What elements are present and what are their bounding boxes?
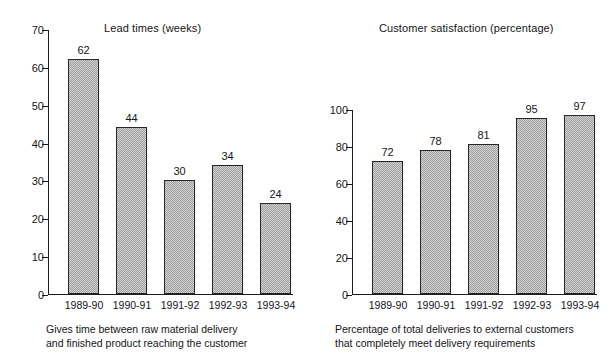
chart-panel-lead-times: Lead times (weeks) 010203040506070 62443… [0,0,305,362]
x-axis-category-label: 1990-91 [409,299,463,311]
bar-value-label: 78 [412,136,459,147]
bar-value-label: 62 [60,45,107,56]
bar-value-label: 72 [364,147,411,158]
bar-slot: 44 [108,30,156,294]
chart-caption-lead-times: Gives time between raw material delivery… [46,322,247,350]
bar-value-label: 34 [204,151,251,162]
y-axis-tick-label: 70 [32,25,44,36]
x-axis-category-label: 1989-90 [361,299,415,311]
y-axis-tick-label: 0 [342,290,348,301]
x-axis-category-label: 1992-93 [505,299,559,311]
y-axis-tick-label: 60 [336,179,348,190]
chart-title-customer-satisfaction: Customer satisfaction (percentage) [379,22,554,35]
y-axis-tick-label: 40 [32,138,44,149]
x-axis-category-label: 1992-93 [201,299,255,311]
bar-slot: 97 [556,110,604,294]
bar[interactable] [260,203,291,294]
x-axis-category-label: 1993-94 [553,299,607,311]
y-axis-tick-label: 100 [330,105,348,116]
figure: Lead times (weeks) 010203040506070 62443… [0,0,610,362]
bar-slot: 78 [412,110,460,294]
y-axis-tick-label: 10 [32,252,44,263]
bar[interactable] [164,180,195,294]
bar-group-customer-satisfaction: 7278819597 [353,110,597,294]
y-axis-tick-label: 60 [32,62,44,73]
x-axis-category-label: 1993-94 [249,299,303,311]
bar[interactable] [420,150,451,294]
bar-value-label: 81 [460,130,507,141]
bar-value-label: 30 [156,166,203,177]
bar[interactable] [516,118,547,294]
bar[interactable] [68,59,99,294]
bar-value-label: 44 [108,113,155,124]
x-axis-category-label: 1991-92 [457,299,511,311]
bar-slot: 81 [460,110,508,294]
bar-slot: 72 [364,110,412,294]
bar-slot: 30 [156,30,204,294]
plot-area-customer-satisfaction: 020406080100 7278819597 [352,110,597,295]
chart-caption-customer-satisfaction: Percentage of total deliveries to extern… [335,322,574,350]
chart-panel-customer-satisfaction: Customer satisfaction (percentage) 02040… [305,0,610,362]
caption-line: and finished product reaching the custom… [46,336,247,350]
bar-value-label: 95 [508,104,555,115]
bar[interactable] [116,127,147,294]
y-axis-tick-label: 0 [38,290,44,301]
y-axis-tick-label: 20 [336,253,348,264]
bar-slot: 24 [252,30,300,294]
x-axis-category-label: 1991-92 [153,299,207,311]
bar[interactable] [468,144,499,294]
y-axis-tick-label: 30 [32,176,44,187]
bar-slot: 62 [60,30,108,294]
bar-group-lead-times: 6244303424 [49,30,293,294]
caption-line: Percentage of total deliveries to extern… [335,322,574,336]
bar-slot: 34 [204,30,252,294]
bar-value-label: 97 [556,101,603,112]
x-axis-line-left [48,294,293,295]
y-axis-tick-label: 20 [32,214,44,225]
bar[interactable] [212,165,243,294]
caption-line: Gives time between raw material delivery [46,322,247,336]
y-axis-tick-label: 40 [336,216,348,227]
x-axis-line-right [352,294,597,295]
y-axis-tick-label: 50 [32,100,44,111]
bar-slot: 95 [508,110,556,294]
x-axis-category-label: 1990-91 [105,299,159,311]
y-axis-tick-label: 80 [336,142,348,153]
bar[interactable] [564,115,595,294]
bar-value-label: 24 [252,189,299,200]
x-axis-category-label: 1989-90 [57,299,111,311]
bar[interactable] [372,161,403,294]
plot-area-lead-times: 010203040506070 6244303424 [48,30,293,295]
caption-line: that completely meet delivery requiremen… [335,336,574,350]
